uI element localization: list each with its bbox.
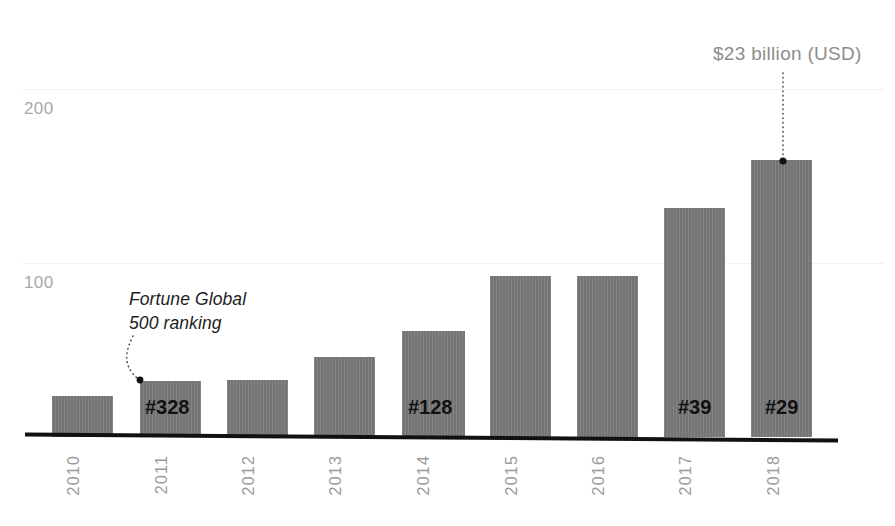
bar-label-2017: #39 [678,397,711,417]
bar-2014[interactable] [402,331,465,437]
x-axis-tick-2010: 2010 [66,455,82,495]
x-axis-tick-2016: 2016 [591,455,607,495]
x-axis-tick-2013: 2013 [328,455,344,495]
bar-label-2018: #29 [765,397,798,417]
bar-2015[interactable] [490,276,551,437]
bar-2010[interactable] [52,396,113,437]
x-axis-tick-2014: 2014 [416,455,432,495]
x-axis-tick-2015: 2015 [504,455,520,495]
bar-series [0,0,895,526]
bar-2016[interactable] [577,276,638,437]
x-axis-tick-2017: 2017 [678,455,694,495]
x-axis-tick-2012: 2012 [241,455,257,495]
x-axis-tick-2018: 2018 [766,455,782,495]
bar-2012[interactable] [227,380,288,437]
annotation-fortune-ranking-line1: Fortune Global [129,288,246,312]
annotation-value-callout: $23 billion (USD) [713,44,862,63]
annotation-fortune-ranking-line2: 500 ranking [129,312,222,336]
x-axis-tick-2011: 2011 [154,455,170,494]
bar-chart: 200 100 #328 #128 #39 #29 Fortune Global… [0,0,895,526]
bar-label-2011: #328 [145,397,190,417]
bar-2013[interactable] [314,357,375,437]
bar-label-2014: #128 [408,397,453,417]
